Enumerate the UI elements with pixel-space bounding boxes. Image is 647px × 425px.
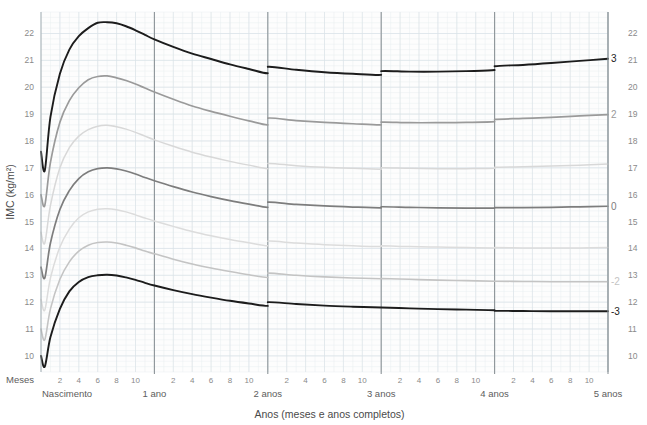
x-tick-month-34: 10 — [358, 376, 367, 385]
y-tick-10: 10 — [25, 351, 35, 361]
x-tick-month-32: 8 — [341, 376, 346, 385]
curve-label--2: -2 — [611, 276, 620, 287]
y-tick-17: 17 — [25, 163, 35, 173]
year-label-12: 1 ano — [143, 388, 167, 399]
x-tick-month-28: 4 — [303, 376, 308, 385]
y-tick-21: 21 — [25, 55, 35, 65]
y-tick-right-17: 17 — [628, 163, 638, 173]
y-tick-22: 22 — [25, 28, 35, 38]
x-tick-month-38: 2 — [398, 376, 403, 385]
y-tick-11: 11 — [25, 324, 34, 334]
x-tick-month-46: 10 — [471, 376, 480, 385]
x-tick-month-26: 2 — [284, 376, 289, 385]
x-tick-month-4: 4 — [77, 376, 82, 385]
y-tick-right-13: 13 — [628, 270, 638, 280]
y-tick-19: 19 — [25, 109, 35, 119]
x-tick-month-22: 10 — [244, 376, 253, 385]
x-tick-month-20: 8 — [228, 376, 233, 385]
x-tick-month-42: 6 — [436, 376, 441, 385]
curve-labels: 320-2-3 — [611, 53, 620, 317]
x-tick-month-44: 8 — [455, 376, 460, 385]
x-tick-month-50: 2 — [511, 376, 516, 385]
x-tick-month-16: 4 — [190, 376, 195, 385]
curve-label--3: -3 — [611, 306, 620, 317]
year-label-24: 2 anos — [254, 388, 283, 399]
y-tick-right-22: 22 — [628, 28, 638, 38]
y-tick-13: 13 — [25, 270, 35, 280]
year-label-48: 4 anos — [480, 388, 509, 399]
y-tick-right-12: 12 — [628, 297, 638, 307]
y-tick-labels-right: 10111213141516171819202122 — [628, 28, 638, 360]
x-tick-month-52: 4 — [530, 376, 535, 385]
y-tick-labels-left: 10111213141516171819202122 — [25, 28, 35, 360]
curve-label-3: 3 — [611, 53, 617, 64]
year-label-0: Nascimento — [42, 388, 92, 399]
x-tick-labels-months: 246810246810246810246810246810 — [58, 376, 594, 385]
year-boundary-labels: Nascimento1 ano2 anos3 anos4 anos5 anos — [42, 388, 623, 399]
x-tick-month-2: 2 — [58, 376, 63, 385]
y-tick-18: 18 — [25, 136, 35, 146]
y-tick-12: 12 — [25, 297, 35, 307]
y-tick-right-15: 15 — [628, 217, 638, 227]
year-label-60: 5 anos — [594, 388, 623, 399]
y-tick-right-11: 11 — [628, 324, 637, 334]
growth-chart-bmi-for-age: 320-2-3101112131415161718192021221011121… — [0, 0, 647, 425]
x-tick-month-14: 2 — [171, 376, 176, 385]
y-tick-right-18: 18 — [628, 136, 638, 146]
y-tick-right-14: 14 — [628, 243, 638, 253]
y-tick-16: 16 — [25, 190, 35, 200]
x-tick-month-18: 6 — [209, 376, 214, 385]
curve-label-0: 0 — [611, 201, 617, 212]
y-tick-right-16: 16 — [628, 190, 638, 200]
x-tick-month-56: 8 — [568, 376, 573, 385]
x-tick-month-8: 8 — [114, 376, 119, 385]
x-tick-month-6: 6 — [95, 376, 100, 385]
y-tick-right-19: 19 — [628, 109, 638, 119]
chart-canvas: 320-2-3101112131415161718192021221011121… — [0, 0, 647, 425]
y-tick-14: 14 — [25, 243, 35, 253]
months-row-label: Meses — [6, 374, 34, 385]
x-tick-month-54: 6 — [549, 376, 554, 385]
x-tick-month-58: 10 — [585, 376, 594, 385]
year-label-36: 3 anos — [367, 388, 396, 399]
y-tick-20: 20 — [25, 82, 35, 92]
y-tick-right-10: 10 — [628, 351, 638, 361]
x-tick-month-30: 6 — [322, 376, 327, 385]
y-tick-15: 15 — [25, 217, 35, 227]
y-tick-right-20: 20 — [628, 82, 638, 92]
y-axis-title: IMC (kg/m²) — [4, 164, 16, 219]
curve-label-2: 2 — [611, 109, 617, 120]
x-tick-month-10: 10 — [131, 376, 140, 385]
x-axis-title: Anos (meses e anos completos) — [255, 408, 405, 420]
y-tick-right-21: 21 — [628, 55, 638, 65]
x-tick-month-40: 4 — [417, 376, 422, 385]
